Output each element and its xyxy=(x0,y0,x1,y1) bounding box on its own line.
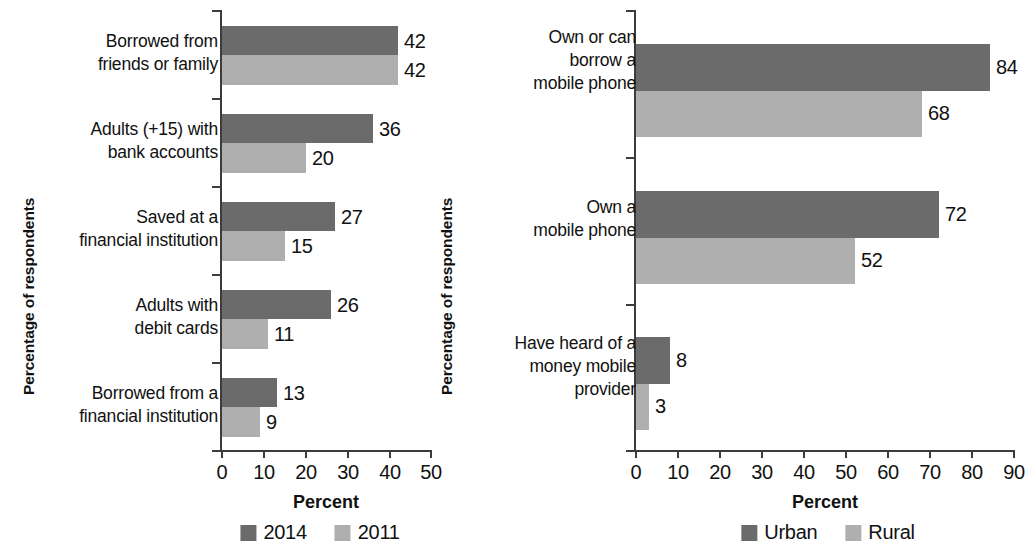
left-chart-x-axis-line xyxy=(220,450,432,452)
right-chart-x-tick-label: 20 xyxy=(709,461,731,484)
right-chart-x-tick xyxy=(635,450,637,458)
left-chart-bar-value: 42 xyxy=(404,30,426,53)
left-chart-category-line: bank accounts xyxy=(8,141,218,164)
legend-swatch-icon xyxy=(845,525,861,541)
left-chart-bar-value: 26 xyxy=(337,294,359,317)
right-chart-bar-value: 8 xyxy=(676,349,687,372)
right-chart-category-label: Own or can borrow a mobile phone xyxy=(461,26,636,95)
right-chart-bar-light xyxy=(636,384,649,430)
right-chart-bar-dark xyxy=(636,191,939,238)
left-chart-bar-value: 15 xyxy=(291,235,313,258)
right-chart-x-tick-label: 60 xyxy=(877,461,899,484)
right-chart-x-tick-label: 30 xyxy=(751,461,773,484)
left-chart-bar-value: 20 xyxy=(312,147,334,170)
right-chart-x-tick-label: 70 xyxy=(919,461,941,484)
right-chart-x-tick xyxy=(1013,450,1015,458)
right-chart-category-line: mobile phone xyxy=(461,219,636,242)
left-chart-bar-light xyxy=(222,319,268,349)
left-chart-category-line: Adults with xyxy=(8,294,218,317)
right-chart-x-tick-label: 80 xyxy=(961,461,983,484)
left-chart-panel: Percentage of respondents 0 10 20 30 40 … xyxy=(0,0,440,545)
right-chart-x-tick xyxy=(719,450,721,458)
right-chart-bar-value: 72 xyxy=(945,203,967,226)
right-chart-bar-dark xyxy=(636,337,670,384)
left-chart-category-line: financial institution xyxy=(8,405,218,428)
left-chart-category-label: Adults with debit cards xyxy=(8,294,218,340)
left-chart-bar-dark xyxy=(222,378,277,407)
right-chart-x-tick-label: 10 xyxy=(667,461,689,484)
right-chart-category-label: Own a mobile phone xyxy=(461,196,636,242)
right-chart-category-label: Have heard of a money mobile provider xyxy=(461,332,636,401)
left-chart-y-tick xyxy=(212,186,220,188)
left-chart-bar-dark xyxy=(222,202,335,231)
left-chart-x-tick-label: 0 xyxy=(217,461,228,484)
left-chart-category-line: Borrowed from xyxy=(8,30,218,53)
right-chart-bar-value: 3 xyxy=(655,395,666,418)
left-chart-bar-light xyxy=(222,231,285,261)
right-chart-x-axis-line xyxy=(634,450,1015,452)
left-chart-category-label: Adults (+15) with bank accounts xyxy=(8,118,218,164)
right-chart-y-tick xyxy=(626,157,634,159)
right-chart-bar-value: 84 xyxy=(996,56,1018,79)
left-chart-legend: 2014 2011 xyxy=(240,521,399,544)
left-chart-category-line: Borrowed from a xyxy=(8,382,218,405)
left-chart-x-tick-label: 40 xyxy=(379,461,401,484)
right-chart-y-axis-title: Percentage of respondents xyxy=(438,198,456,395)
left-chart-x-axis-title: Percent xyxy=(293,492,359,513)
left-chart-bar-value: 13 xyxy=(283,382,305,405)
left-chart-y-tick xyxy=(212,274,220,276)
right-chart-x-axis-title: Percent xyxy=(792,492,858,513)
right-chart-x-tick xyxy=(803,450,805,458)
left-chart-x-tick xyxy=(221,450,223,458)
right-chart-bar-light xyxy=(636,91,922,137)
left-chart-bar-value: 27 xyxy=(341,206,363,229)
left-chart-bar-dark xyxy=(222,290,331,319)
right-chart-legend-entry-urban[interactable]: Urban xyxy=(741,521,817,544)
right-chart-category-line: mobile phone xyxy=(461,72,636,95)
right-chart-category-line: Own a xyxy=(461,196,636,219)
right-chart-bar-value: 52 xyxy=(861,249,883,272)
right-chart-category-line: money mobile xyxy=(461,355,636,378)
left-chart-bar-dark xyxy=(222,114,373,143)
left-chart-bar-value: 36 xyxy=(379,118,401,141)
left-chart-x-tick xyxy=(263,450,265,458)
left-chart-bar-light xyxy=(222,407,260,437)
right-chart-x-tick xyxy=(677,450,679,458)
left-chart-y-tick xyxy=(212,450,220,452)
right-chart-x-tick-label: 50 xyxy=(835,461,857,484)
left-chart-bar-dark xyxy=(222,26,398,55)
left-chart-x-tick-label: 10 xyxy=(253,461,275,484)
right-chart-y-tick xyxy=(626,10,634,12)
left-chart-legend-entry-2014[interactable]: 2014 xyxy=(240,521,306,544)
left-chart-category-line: debit cards xyxy=(8,317,218,340)
right-chart-panel: Percentage of respondents 0 10 20 30 40 … xyxy=(430,0,1025,545)
left-chart-y-tick xyxy=(212,10,220,12)
left-chart-bar-value: 11 xyxy=(274,323,294,346)
right-chart-legend-entry-rural[interactable]: Rural xyxy=(845,521,914,544)
left-chart-bar-light xyxy=(222,55,398,85)
right-chart-category-line: borrow a xyxy=(461,49,636,72)
left-chart-x-tick-label: 30 xyxy=(337,461,359,484)
left-chart-category-line: Adults (+15) with xyxy=(8,118,218,141)
left-chart-x-tick xyxy=(389,450,391,458)
right-chart-x-tick xyxy=(971,450,973,458)
right-chart-category-line: provider xyxy=(461,378,636,401)
right-chart-x-tick xyxy=(887,450,889,458)
left-chart-y-tick xyxy=(212,98,220,100)
right-chart-category-line: Have heard of a xyxy=(461,332,636,355)
right-chart-legend-label: Urban xyxy=(764,521,817,544)
left-chart-bar-value: 42 xyxy=(404,59,426,82)
left-chart-x-tick xyxy=(305,450,307,458)
left-chart-legend-label: 2011 xyxy=(358,521,400,544)
right-chart-bar-value: 68 xyxy=(928,102,950,125)
right-chart-x-tick-label: 0 xyxy=(631,461,642,484)
left-chart-category-label: Saved at a financial institution xyxy=(8,206,218,252)
left-chart-bar-value: 9 xyxy=(266,411,277,434)
right-chart-x-tick xyxy=(761,450,763,458)
left-chart-legend-label: 2014 xyxy=(263,521,306,544)
left-chart-legend-entry-2011[interactable]: 2011 xyxy=(335,521,400,544)
left-chart-y-tick xyxy=(212,362,220,364)
left-chart-category-line: friends or family xyxy=(8,53,218,76)
right-chart-x-tick-label: 40 xyxy=(793,461,815,484)
right-chart-bar-dark xyxy=(636,44,990,91)
